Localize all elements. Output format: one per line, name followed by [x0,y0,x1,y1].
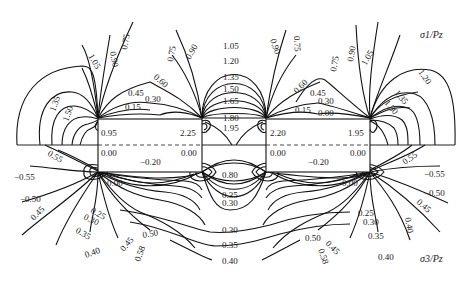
contour-label: 1.50 [223,84,239,94]
contour-label: 0.45 [128,88,144,98]
contour-label: 0.80 [222,170,238,180]
contour-label: 0.00 [107,178,123,188]
right-block-bottom-value: −0.20 [308,157,329,167]
contour-label: 0.00 [318,108,334,118]
contour-label: 0.75 [292,36,303,53]
contour-label: 1.20 [223,56,239,66]
left-block-bottom-value: −0.20 [140,157,161,167]
stress-contour-figure: 0.95 2.25 0.00 0.00 −0.20 2.20 1.95 0.00… [0,0,469,281]
contour-label: 0.90 [183,42,200,61]
contour-label: 0.45 [118,234,136,253]
contour-label: 0.60 [291,77,310,96]
right-block-top-left-value: 2.20 [270,128,286,138]
contour-label: 0.90 [268,37,283,56]
contour-label: 1.05 [223,41,239,51]
contour-label: 0.90 [345,45,358,63]
contour-label: 1.95 [223,123,239,133]
lower-contour-labels: 0.55 −0.55 −0.50 0.45 0.00 0.25 0.30 0.3… [14,148,445,266]
contour-label: 1.80 [223,113,239,123]
contour-label: 0.30 [145,94,161,104]
left-block-mid-right-value: 0.00 [181,148,197,158]
contour-label: 0.15 [295,105,311,115]
left-block-top-left-value: 0.95 [101,128,117,138]
contour-label: 0.30 [222,225,238,235]
contour-label: 0.40 [83,245,102,260]
contour-label: 0.75 [328,55,341,73]
contour-label: 0.40 [403,217,416,235]
contour-label: 0.00 [342,178,358,188]
contour-label: 0.30 [363,217,379,227]
contour-label: 0.35 [222,240,238,250]
right-block-top-right-value: 1.95 [348,128,364,138]
contour-label: −0.50 [20,194,41,204]
contour-label: 0.50 [142,227,160,240]
contour-label: 0.35 [368,231,384,241]
left-block-top-right-value: 2.25 [180,128,196,138]
contour-label: 1.65 [223,96,239,106]
contour-label: 1.35 [47,94,62,113]
left-block-mid-left-value: 0.00 [101,148,117,158]
contour-label: 0.50 [305,233,321,243]
contour-label: 0.58 [132,244,147,263]
contour-label: 0.30 [318,96,334,106]
contour-label: 0.15 [125,102,141,112]
contour-label: 0.55 [46,148,65,165]
contour-plot: 0.95 2.25 0.00 0.00 −0.20 2.20 1.95 0.00… [0,0,469,281]
upper-plot-title: σ1/Pz [420,29,443,40]
contour-label: 0.30 [222,198,238,208]
contour-label: 0.60 [152,72,171,90]
contour-label: 0.45 [415,197,434,215]
contour-label: −0.55 [14,172,35,182]
contour-label: −0.55 [424,169,445,179]
right-block-mid-left-value: 0.00 [270,148,286,158]
contour-label: 0.45 [28,204,47,223]
contour-label: −0.50 [424,188,445,198]
right-block-mid-right-value: 0.00 [350,148,366,158]
contour-label: 0.40 [378,252,394,262]
contour-label: 1.35 [223,72,239,82]
contour-label: 0.75 [119,33,132,51]
contour-label: 0.40 [222,256,238,266]
lower-plot-title: σ3/Pz [420,253,443,264]
contour-label: 0.90 [108,51,121,69]
